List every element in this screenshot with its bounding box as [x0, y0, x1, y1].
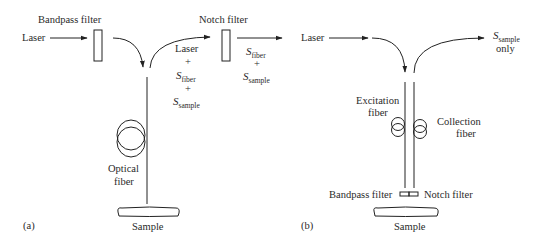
svg-text:Ssample: Ssample [243, 70, 270, 85]
bandpass-filter-label-b: Bandpass filter [329, 189, 393, 200]
excitation-fiber-label-1: Excitation [356, 95, 400, 106]
curved-arrow-into-excitation [372, 38, 405, 72]
sample-label-a: Sample [132, 221, 164, 232]
notch-filter-box-b [409, 192, 418, 196]
optical-fiber-label-2: fiber [114, 176, 134, 187]
collection-fiber-label-2: fiber [456, 128, 476, 139]
mixed-signal-stack: Laser + Sfiber + Ssample [173, 43, 200, 110]
output-label-b: Ssample [493, 29, 520, 44]
curved-arrow-into-fiber-a [113, 38, 143, 67]
bandpass-filter-box-b [400, 192, 409, 196]
bandpass-filter-box-a [94, 30, 102, 61]
fiber-coil-icon-a [117, 120, 145, 157]
collection-coil-icon [414, 120, 427, 139]
svg-text:+: + [185, 83, 191, 94]
svg-text:Ssample: Ssample [173, 95, 200, 110]
svg-text:Sfiber: Sfiber [176, 69, 196, 84]
laser-label-a: Laser [22, 32, 46, 43]
sample-slab-a [118, 207, 179, 217]
sample-slab-b [374, 207, 438, 217]
excitation-coil-icon [392, 118, 405, 137]
notch-filter-box-a [222, 30, 230, 61]
raman-probe-diagram: Bandpass filter Laser Notch filter Laser… [0, 0, 542, 242]
panel-label-a: (a) [23, 220, 35, 232]
sample-label-b: Sample [394, 221, 426, 232]
notch-filter-label-a: Notch filter [199, 14, 248, 25]
svg-text:+: + [185, 56, 191, 67]
bandpass-filter-label-a: Bandpass filter [38, 14, 102, 25]
panel-b: Laser Ssample only Excitation fiber Coll… [301, 29, 520, 232]
collection-fiber-label-1: Collection [437, 116, 481, 127]
output-only-label: only [496, 43, 515, 54]
excitation-fiber-label-2: fiber [368, 107, 388, 118]
svg-text:Laser: Laser [175, 43, 199, 54]
laser-label-b: Laser [301, 32, 325, 43]
panel-label-b: (b) [301, 220, 314, 232]
curved-arrow-out-collection [414, 38, 484, 73]
optical-fiber-label-1: Optical [108, 163, 139, 174]
notch-filter-label-b: Notch filter [424, 189, 473, 200]
svg-text:+: + [254, 58, 260, 69]
panel-a: Bandpass filter Laser Notch filter Laser… [22, 14, 282, 232]
after-notch-signal-stack: Sfiber + Ssample [243, 45, 270, 85]
